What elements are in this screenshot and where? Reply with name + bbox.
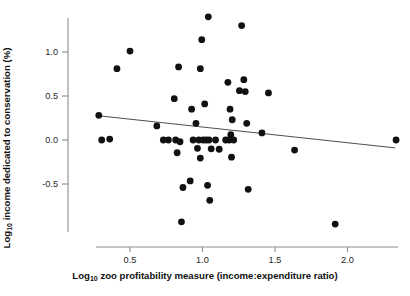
x-axis-title-prefix: Log	[72, 270, 90, 281]
plot-canvas: 1.00.50.0-0.5 0.51.01.52.0	[0, 0, 410, 296]
data-point	[259, 130, 266, 137]
data-point	[230, 137, 237, 144]
y-tick-label: -0.5	[42, 179, 58, 189]
data-point	[291, 147, 298, 154]
data-point	[245, 186, 252, 193]
x-axis-title-subscript: 10	[90, 275, 98, 282]
data-point	[106, 136, 113, 143]
data-point	[206, 137, 213, 144]
data-point	[265, 90, 272, 97]
y-axis-ticks: 1.00.50.0-0.5	[42, 47, 68, 189]
data-point	[197, 65, 204, 72]
data-point	[165, 137, 172, 144]
x-tick-label: 1.0	[196, 255, 209, 265]
data-point	[174, 149, 181, 156]
scatter-plot-figure: 1.00.50.0-0.5 0.51.01.52.0 Log10 income …	[0, 0, 410, 296]
data-point	[175, 64, 182, 71]
x-tick-label: 2.0	[341, 255, 354, 265]
data-point	[178, 218, 185, 225]
data-point	[212, 137, 219, 144]
data-point	[177, 138, 184, 145]
x-axis-title-suffix: zoo profitability measure (income:expend…	[98, 270, 338, 281]
data-point	[197, 155, 204, 162]
data-point	[393, 137, 400, 144]
data-point	[240, 76, 247, 83]
y-tick-label: 0.5	[45, 91, 58, 101]
data-point	[153, 123, 160, 130]
y-axis-title-prefix: Log	[1, 231, 12, 249]
data-point	[238, 22, 245, 29]
x-axis-title: Log10 zoo profitability measure (income:…	[0, 270, 410, 282]
data-point	[205, 13, 212, 20]
x-tick-label: 1.5	[269, 255, 282, 265]
data-point	[224, 79, 231, 86]
data-point	[227, 106, 234, 113]
data-point	[204, 182, 211, 189]
data-point	[193, 120, 200, 127]
y-axis-title-subscript: 10	[6, 223, 13, 231]
data-point	[208, 145, 215, 152]
data-point	[243, 120, 250, 127]
data-point	[242, 88, 249, 95]
data-point	[229, 116, 236, 123]
y-tick-label: 1.0	[45, 47, 58, 57]
data-point	[190, 137, 197, 144]
data-point	[180, 184, 187, 191]
y-axis-title-suffix: income dedicated to conservation (%)	[1, 48, 12, 223]
data-point	[332, 221, 339, 228]
y-axis-title: Log10 income dedicated to conservation (…	[0, 0, 14, 296]
data-point	[228, 154, 235, 161]
data-point	[194, 145, 201, 152]
data-point	[95, 112, 102, 119]
data-point	[98, 137, 105, 144]
data-point	[187, 178, 194, 185]
data-point	[127, 48, 134, 55]
data-point	[198, 36, 205, 43]
data-point	[171, 95, 178, 102]
x-axis-ticks: 0.51.01.52.0	[124, 247, 354, 265]
data-point	[188, 106, 195, 113]
data-point	[201, 101, 208, 108]
data-point	[236, 87, 243, 94]
data-point	[216, 146, 223, 153]
x-tick-label: 0.5	[124, 255, 137, 265]
data-point	[114, 65, 121, 72]
y-tick-label: 0.0	[45, 135, 58, 145]
data-point	[206, 197, 213, 204]
